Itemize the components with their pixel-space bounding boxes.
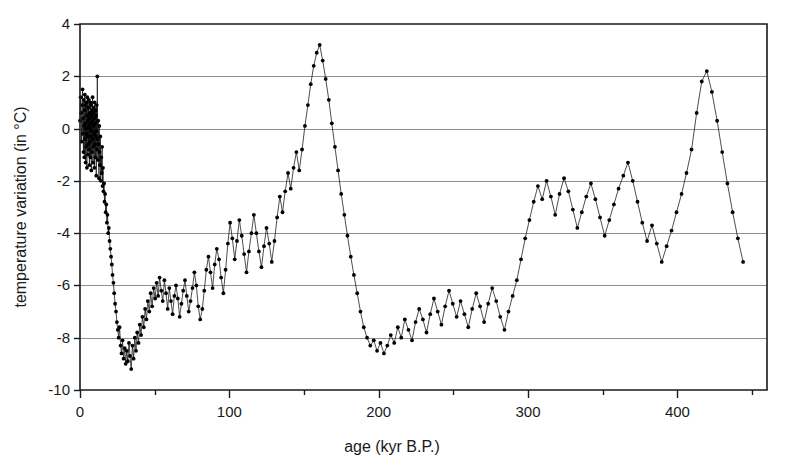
x-tick-label: 400: [665, 403, 690, 420]
y-tick-label: -10: [48, 381, 70, 398]
x-tick-label: 100: [217, 403, 242, 420]
x-tick-label: 0: [76, 403, 84, 420]
y-tick-label: 0: [62, 120, 70, 137]
x-axis-title: age (kyr B.P.): [344, 438, 440, 455]
x-tick-label: 300: [516, 403, 541, 420]
y-tick-label: -2: [57, 172, 70, 189]
chart-figure: -10-8-6-4-20240100200300400 age (kyr B.P…: [0, 0, 785, 468]
x-tick-label: 200: [366, 403, 391, 420]
y-tick-label: -6: [57, 276, 70, 293]
y-tick-label: 4: [62, 15, 70, 32]
y-axis-title: temperature variation (in °C): [12, 106, 29, 307]
y-tick-label: -4: [57, 224, 70, 241]
vostok-temperature-chart: -10-8-6-4-20240100200300400 age (kyr B.P…: [0, 0, 785, 468]
y-tick-label: 2: [62, 67, 70, 84]
y-tick-label: -8: [57, 329, 70, 346]
